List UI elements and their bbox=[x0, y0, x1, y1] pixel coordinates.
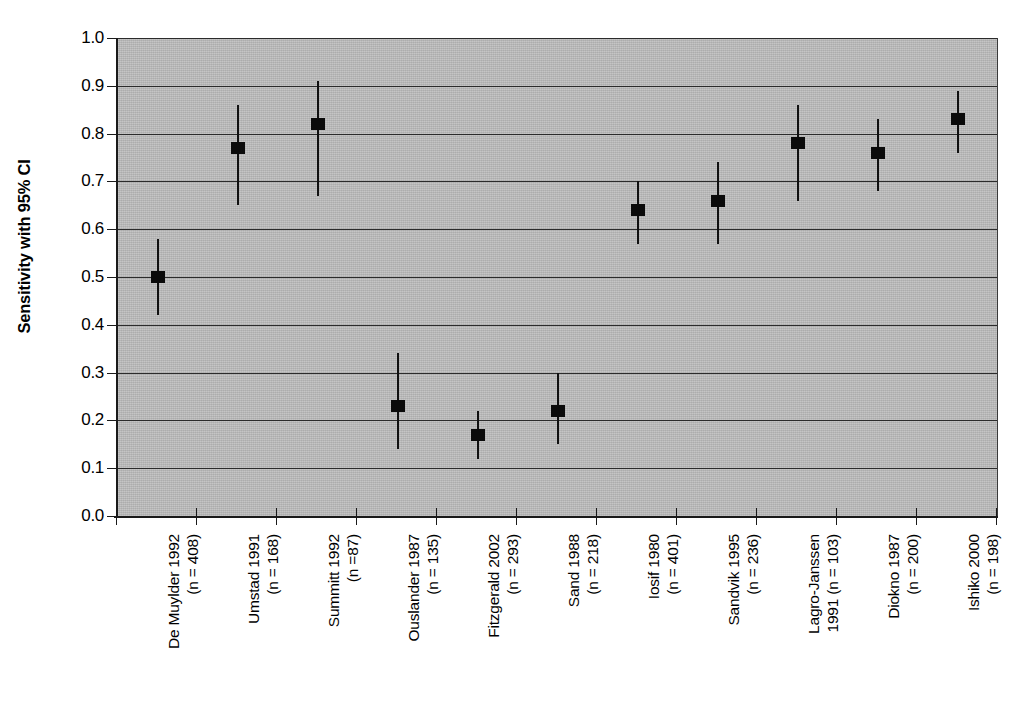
y-axis-tick-mark bbox=[107, 325, 116, 326]
y-axis-tick-label: 0.4 bbox=[52, 316, 104, 333]
y-axis-title: Sensitivity with 95% CI bbox=[15, 137, 34, 357]
gridline bbox=[118, 229, 998, 230]
y-axis-tick-mark bbox=[107, 86, 116, 87]
x-axis-category-label: Summitt 1992 (n =87) bbox=[324, 534, 362, 694]
data-point-marker bbox=[871, 147, 885, 159]
y-axis-tick-label: 1.0 bbox=[52, 29, 104, 46]
data-point-marker bbox=[231, 142, 245, 154]
x-axis-tick-mark bbox=[756, 508, 757, 525]
y-axis-tick-label: 0.9 bbox=[52, 77, 104, 94]
y-axis-tick-mark bbox=[107, 38, 116, 39]
data-point-marker bbox=[631, 204, 645, 216]
x-axis-tick-mark bbox=[356, 508, 357, 525]
y-axis-tick-label: 0.5 bbox=[52, 268, 104, 285]
x-axis-category-label: Fitzgerald 2002 (n = 293) bbox=[484, 534, 522, 694]
x-axis-tick-mark bbox=[916, 508, 917, 525]
confidence-interval-whisker bbox=[237, 105, 239, 205]
gridline bbox=[118, 181, 998, 182]
y-axis-tick-label: 0.7 bbox=[52, 172, 104, 189]
y-axis-tick-label-group: 0.00.10.20.30.40.50.60.70.80.91.0 bbox=[48, 0, 104, 560]
x-axis-tick-mark bbox=[516, 508, 517, 525]
x-axis-tick-mark bbox=[116, 508, 117, 525]
plot-area bbox=[116, 38, 998, 516]
x-axis-category-label: Ishiko 2000 (n = 198) bbox=[964, 534, 1002, 694]
y-axis-tick-label: 0.2 bbox=[52, 411, 104, 428]
y-axis-tick-label: 0.3 bbox=[52, 364, 104, 381]
gridline bbox=[118, 134, 998, 135]
x-axis-line bbox=[114, 516, 998, 518]
forest-plot-figure: Sensitivity with 95% CI 0.00.10.20.30.40… bbox=[0, 0, 1018, 715]
x-axis-tick-mark bbox=[196, 508, 197, 525]
x-axis-tick-mark bbox=[996, 508, 997, 525]
data-point-marker bbox=[311, 118, 325, 130]
y-axis-tick-label: 0.1 bbox=[52, 459, 104, 476]
y-axis-tick-mark bbox=[107, 420, 116, 421]
y-axis-tick-mark bbox=[107, 516, 116, 517]
x-axis-tick-mark bbox=[676, 508, 677, 525]
y-axis-tick-mark bbox=[107, 134, 116, 135]
y-axis-tick-mark bbox=[107, 277, 116, 278]
gridline bbox=[118, 86, 998, 87]
x-axis-category-label: Ouslander 1987 (n = 135) bbox=[404, 534, 442, 694]
y-axis-tick-mark bbox=[107, 181, 116, 182]
data-point-marker bbox=[551, 405, 565, 417]
y-axis-tick-mark bbox=[107, 468, 116, 469]
x-axis-category-label: Umstad 1991 (n = 168) bbox=[244, 534, 282, 694]
y-axis-tick-mark bbox=[107, 229, 116, 230]
y-axis-tick-label: 0.6 bbox=[52, 220, 104, 237]
gridline bbox=[118, 277, 998, 278]
data-point-marker bbox=[951, 113, 965, 125]
x-axis-tick-mark bbox=[596, 508, 597, 525]
y-axis-tick-mark bbox=[107, 373, 116, 374]
confidence-interval-whisker bbox=[797, 105, 799, 201]
gridline bbox=[118, 468, 998, 469]
x-axis-tick-mark bbox=[276, 508, 277, 525]
data-point-marker bbox=[791, 137, 805, 149]
x-axis-tick-mark bbox=[836, 508, 837, 525]
y-axis-tick-label: 0.0 bbox=[52, 507, 104, 524]
plot-right-border bbox=[997, 38, 998, 516]
x-axis-category-label: Sandvik 1995 (n = 236) bbox=[724, 534, 762, 694]
x-axis-tick-mark bbox=[436, 508, 437, 525]
y-axis-tick-label: 0.8 bbox=[52, 125, 104, 142]
x-axis-category-label: Diokno 1987 (n = 200) bbox=[884, 534, 922, 694]
x-axis-category-label: Iosif 1980 (n = 401) bbox=[644, 534, 682, 694]
gridline bbox=[118, 325, 998, 326]
x-axis-category-label: Lagro-Janssen 1991 (n = 103) bbox=[804, 534, 842, 694]
x-axis-category-label: De Muylder 1992 (n = 408) bbox=[164, 534, 202, 694]
plot-top-border bbox=[118, 38, 998, 39]
x-axis-category-label: Sand 1988 (n = 218) bbox=[564, 534, 602, 694]
data-point-marker bbox=[391, 400, 405, 412]
data-point-marker bbox=[711, 195, 725, 207]
data-point-marker bbox=[471, 429, 485, 441]
data-point-marker bbox=[151, 271, 165, 283]
confidence-interval-whisker bbox=[317, 81, 319, 196]
